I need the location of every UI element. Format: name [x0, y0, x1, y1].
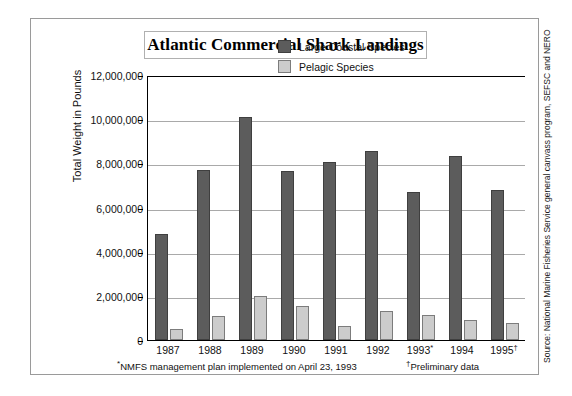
legend-item-pelagic: Pelagic Species	[278, 58, 443, 75]
bar-large-coastal-1992	[365, 151, 379, 340]
x-axis-tick-label: 1991	[324, 344, 347, 356]
plot-inner	[148, 77, 525, 340]
y-axis-tick-mark	[138, 253, 143, 254]
x-axis-tick-label: 1995†	[490, 344, 518, 356]
bar-large-coastal-1988	[197, 170, 211, 340]
y-axis-tick-mark	[138, 120, 143, 121]
y-axis-tick-mark	[138, 297, 143, 298]
legend-item-large-coastal: Large Coastal Species	[278, 38, 443, 55]
bar-pelagic-1990	[296, 306, 310, 340]
bar-large-coastal-1989	[239, 117, 253, 340]
gridline	[148, 121, 525, 122]
bar-pelagic-1992	[380, 311, 394, 340]
legend-label: Pelagic Species	[299, 61, 374, 73]
x-axis-tick-label: 1989	[240, 344, 263, 356]
bar-large-coastal-1993	[407, 192, 421, 340]
gridline	[148, 165, 525, 166]
y-axis-tick-mark	[138, 209, 143, 210]
bar-large-coastal-1991	[323, 162, 337, 340]
bar-pelagic-1994	[464, 320, 478, 340]
bar-pelagic-1991	[338, 326, 352, 340]
figure-frame: Atlantic Commercial Shark Landings 02,00…	[30, 18, 539, 375]
bar-pelagic-1993	[422, 315, 436, 340]
y-axis-title: Total Weight in Pounds	[71, 36, 83, 216]
y-axis-tick-mark	[138, 76, 143, 77]
y-axis-tick-label: 8,000,000	[96, 158, 143, 170]
bar-large-coastal-1995	[491, 190, 505, 340]
y-axis-tick-label: 2,000,000	[96, 291, 143, 303]
x-axis-tick-label: 1990	[282, 344, 305, 356]
x-axis-tick-labels: 1987198819891990199119921993*19941995†	[147, 344, 525, 360]
footnote-preliminary: †Preliminary data	[406, 361, 479, 372]
y-axis-tick-label: 12,000,000	[90, 70, 143, 82]
legend-swatch-icon	[278, 60, 291, 73]
bar-large-coastal-1994	[449, 156, 463, 340]
legend-swatch-icon	[278, 40, 291, 53]
y-axis-tick-mark	[138, 341, 143, 342]
x-axis-tick-label: 1992	[366, 344, 389, 356]
footnote-nmfs: *NMFS management plan implemented on Apr…	[117, 361, 357, 372]
legend-label: Large Coastal Species	[299, 41, 405, 53]
footnote-nmfs-text: NMFS management plan implemented on Apri…	[120, 361, 357, 372]
chart-legend: Large Coastal SpeciesPelagic Species	[278, 38, 443, 78]
x-axis-tick-label: 1994	[450, 344, 473, 356]
y-axis-tick-mark	[138, 164, 143, 165]
y-axis-tick-label: 10,000,000	[90, 114, 143, 126]
bar-pelagic-1989	[254, 296, 268, 340]
bar-pelagic-1988	[212, 316, 226, 340]
bar-pelagic-1987	[170, 329, 184, 340]
x-axis-tick-label: 1987	[156, 344, 179, 356]
source-note: Source: National Marine Fisheries Servic…	[542, 33, 552, 363]
y-axis-tick-label: 4,000,000	[96, 247, 143, 259]
bar-large-coastal-1990	[281, 171, 295, 340]
bar-pelagic-1995	[506, 323, 520, 340]
plot-area	[147, 76, 525, 341]
footnote-preliminary-text: Preliminary data	[410, 361, 479, 372]
y-axis-tick-label: 6,000,000	[96, 203, 143, 215]
x-axis-tick-label: 1993*	[407, 344, 433, 356]
y-axis-tick-labels: 02,000,0004,000,0006,000,0008,000,00010,…	[77, 76, 143, 341]
x-axis-tick-label: 1988	[198, 344, 221, 356]
bar-large-coastal-1987	[155, 234, 169, 340]
